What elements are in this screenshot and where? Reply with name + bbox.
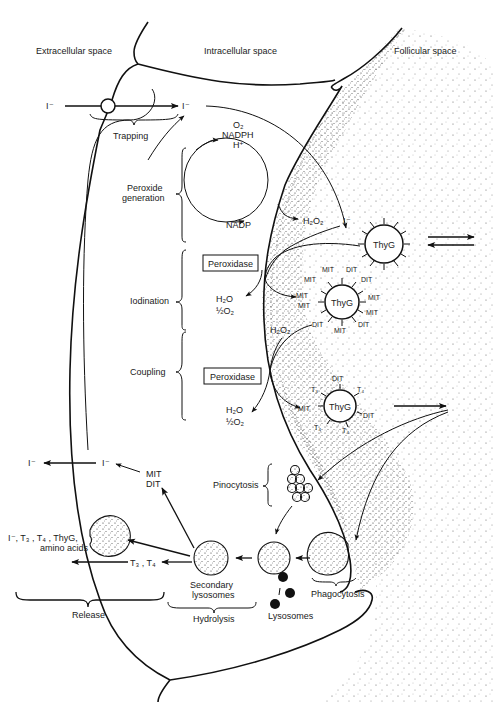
mit-label: MIT — [146, 469, 162, 479]
residue-label: MIT — [368, 294, 381, 301]
secondary-lysosomes-label-1: Secondary — [190, 580, 234, 590]
h2o2-label-1: H₂O₂ — [303, 216, 324, 226]
follicular-space-label: Follicular space — [394, 46, 457, 56]
extracellular-space-label: Extracellular space — [36, 46, 112, 56]
residue-label: MIT — [334, 327, 347, 334]
residue-label: MIT — [296, 292, 309, 299]
h-plus-label: H⁺ — [233, 140, 245, 150]
thyroid-hormone-synthesis-diagram: Extracellular space Intracellular space … — [0, 0, 494, 702]
hydrolysis-label: Hydrolysis — [193, 614, 235, 624]
residue-label: T₄ — [342, 427, 349, 434]
iodide-extracellular-label: I⁻ — [46, 101, 54, 111]
iodide-follicular-label: I⁻ — [343, 216, 351, 226]
residue-label: DIT — [346, 266, 358, 273]
peroxidase-box-2: Peroxidase — [210, 372, 255, 382]
nadp-label: NADP — [226, 220, 251, 230]
lysosome-fusion: Lysosomes — [258, 542, 314, 621]
iodide-intracellular-label: I⁻ — [182, 101, 190, 111]
residue-label: MIT — [322, 266, 335, 273]
lysosome-dot — [270, 599, 280, 609]
residue-label: DIT — [312, 321, 324, 328]
residue-label: MIT — [304, 276, 317, 283]
iodide-recycled-label: I⁻ — [102, 458, 110, 468]
lysosome-dot — [285, 588, 295, 598]
iodide-transporter-icon — [101, 99, 115, 113]
peroxide-generation-label-2: generation — [122, 193, 165, 203]
secondary-lysosomes-label-2: lysosomes — [192, 590, 235, 600]
phagocytosis-label: Phagocytosis — [311, 589, 365, 599]
release-mix-label-2: amino acids — [40, 543, 89, 553]
thyg-label-1: ThyG — [373, 240, 395, 250]
follicular-space-area — [262, 28, 494, 702]
release-outputs: MIT DIT I⁻ I⁻ I⁻, T₃ , T₄ , ThyG, amino … — [8, 458, 194, 620]
residue-label: MIT — [298, 302, 311, 309]
residue-label: DIT — [332, 375, 344, 382]
release-label: Release — [72, 610, 105, 620]
pinocytosis-label: Pinocytosis — [213, 480, 259, 490]
pinocytosis-vesicles — [288, 466, 313, 502]
residue-label: MIT — [298, 405, 311, 412]
coupling-label: Coupling — [130, 367, 166, 377]
residue-label: DIT — [358, 321, 370, 328]
intracellular-space-label: Intracellular space — [204, 46, 277, 56]
iodination-label: Iodination — [130, 296, 169, 306]
h2o2-label-2: H₂O₂ — [270, 325, 291, 335]
nadph-label: NADPH — [222, 130, 254, 140]
residue-label: DIT — [361, 276, 373, 283]
o2-label: O₂ — [233, 120, 244, 130]
lysosome-dot — [278, 572, 288, 582]
residue-label: MIT — [366, 309, 379, 316]
iodide-released-label: I⁻ — [28, 458, 36, 468]
lysosomes-label: Lysosomes — [268, 611, 314, 621]
h2o-label-2: H₂O — [226, 405, 243, 415]
h2o-label-1: H₂O — [216, 294, 233, 304]
t3-t4-label: T₃ , T₄ — [130, 558, 156, 568]
thyg-label-3: ThyG — [329, 402, 351, 412]
residue-label: T₄ — [357, 386, 364, 393]
residue-label: DIT — [363, 412, 375, 419]
residue-label: T₄ — [314, 424, 321, 431]
peroxidase-box-1: Peroxidase — [208, 259, 253, 269]
half-o2-label-2: ½O₂ — [226, 417, 245, 427]
dit-label: DIT — [146, 479, 161, 489]
residue-label: T₃ — [311, 386, 318, 393]
thyg-label-2: ThyG — [331, 298, 353, 308]
trapping-label: Trapping — [113, 131, 148, 141]
peroxide-generation-label-1: Peroxide — [127, 183, 163, 193]
half-o2-label-1: ½O₂ — [216, 306, 235, 316]
release-mix-label-1: I⁻, T₃ , T₄ , ThyG, — [8, 533, 78, 543]
